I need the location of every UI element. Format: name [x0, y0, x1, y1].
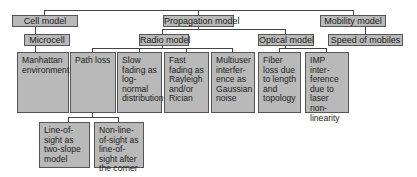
radio-model-node: Radio model: [139, 34, 189, 46]
slow-fading-label: Slow fading as log-normal distribution: [122, 55, 164, 103]
mobility-model-node: Mobility model: [320, 15, 386, 27]
propagation-model-node: Propagation model: [163, 15, 234, 27]
cell-model-node: Cell model: [12, 15, 78, 27]
non-line-of-sight-label: Non-line-of-sight as line-of-sight after…: [99, 125, 139, 173]
manhattan-node: Manhattan environment: [17, 52, 69, 113]
path-loss-node: Path loss: [70, 52, 116, 113]
optical-model-label: Optical model: [259, 35, 314, 45]
fast-fading-label: Fast fading as Rayleigh and/or Rician: [169, 55, 204, 103]
connector-radio-branch: [92, 48, 233, 49]
multiuser-node: Multiuser interfer-ence as Gaussian nois…: [211, 52, 255, 113]
fiber-loss-node: Fiber loss due to length and topology: [258, 52, 301, 113]
microcell-label: Microcell: [29, 35, 65, 45]
fiber-loss-label: Fiber loss due to length and topology: [263, 55, 296, 103]
propagation-model-label: Propagation model: [164, 16, 240, 26]
imp-label: IMP inter-ference due to laser non-linea…: [310, 55, 340, 123]
slow-fading-node: Slow fading as log-normal distribution: [117, 52, 162, 113]
imp-node: IMP inter-ference due to laser non-linea…: [305, 52, 349, 113]
path-loss-label: Path loss: [75, 55, 110, 65]
optical-model-node: Optical model: [258, 34, 314, 46]
cell-model-label: Cell model: [24, 16, 67, 26]
top-connector: [44, 10, 354, 11]
non-line-of-sight-node: Non-line-of-sight as line-of-sight after…: [94, 122, 144, 168]
speed-of-mobiles-label: Speed of mobiles: [331, 35, 401, 45]
speed-of-mobiles-node: Speed of mobiles: [328, 34, 403, 46]
line-of-sight-node: Line-of-sight as two-slope model: [39, 122, 90, 168]
connector-pathloss-branch: [68, 117, 119, 118]
connector-optical-branch: [279, 48, 327, 49]
multiuser-label: Multiuser interfer-ence as Gaussian nois…: [216, 55, 252, 103]
fast-fading-node: Fast fading as Rayleigh and/or Rician: [164, 52, 209, 113]
manhattan-label: Manhattan environment: [22, 55, 69, 75]
microcell-node: Microcell: [24, 34, 70, 46]
line-of-sight-label: Line-of-sight as two-slope model: [44, 125, 81, 164]
connector-propagation-branch: [162, 29, 286, 30]
connector-microcell-manhattan: [35, 45, 36, 52]
radio-model-label: Radio model: [140, 35, 191, 45]
mobility-model-label: Mobility model: [324, 16, 382, 26]
